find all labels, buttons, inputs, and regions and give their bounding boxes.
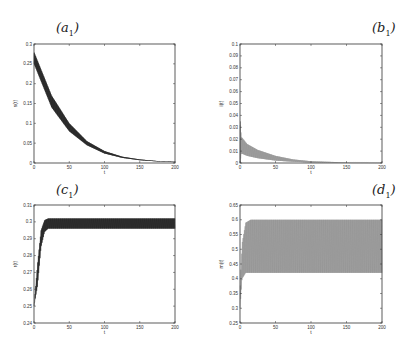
y-axis-label: m(t): [218, 259, 224, 268]
y-tick-label: 0.3: [232, 306, 239, 311]
y-tick-label: 0.45: [229, 262, 238, 267]
y-tick-label: 0.4: [232, 276, 239, 281]
y-tick-label: 0.55: [229, 232, 238, 237]
y-tick-label: 0.35: [229, 291, 238, 296]
x-tick-label: 200: [378, 325, 386, 330]
y-tick-label: 0.5: [232, 247, 239, 252]
y-tick-label: 0.25: [229, 321, 238, 326]
data-band: [240, 220, 382, 309]
x-tick-label: 150: [343, 325, 351, 330]
x-tick-label: 50: [273, 325, 279, 330]
y-tick-label: 0.6: [232, 217, 239, 222]
y-tick-label: 0.65: [229, 203, 238, 208]
x-tick-label: 0: [239, 325, 242, 330]
